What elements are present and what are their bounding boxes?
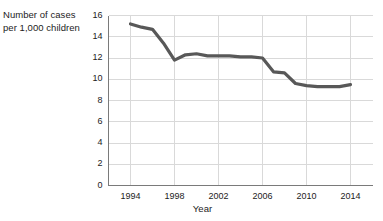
x-axis-tick-label: 1994 [111,191,151,201]
x-axis-title-text: Year [193,203,212,214]
data-series-line [131,24,351,87]
y-axis-tick-label: 4 [83,137,103,147]
y-axis-tick-label: 2 [83,158,103,168]
x-axis-tick-label: 2010 [287,191,327,201]
y-axis-tick-label: 8 [83,95,103,105]
x-axis-tick-label: 2014 [331,191,371,201]
y-axis-tick-label: 12 [83,52,103,62]
y-axis-tick-label: 16 [83,10,103,20]
horizontal-gridlines [109,16,373,165]
y-axis-tick-label: 6 [83,116,103,126]
x-axis-title: Year [0,203,383,214]
y-axis-tick-label: 14 [83,31,103,41]
x-axis-tick-label: 2006 [243,191,283,201]
plot-area [0,0,383,221]
line-chart: Number of cases per 1,000 children 02468… [0,0,383,221]
y-axis-tick-label: 10 [83,73,103,83]
x-axis-tick-label: 1998 [155,191,195,201]
x-axis-tick-label: 2002 [199,191,239,201]
y-axis-tick-label: 0 [83,180,103,190]
